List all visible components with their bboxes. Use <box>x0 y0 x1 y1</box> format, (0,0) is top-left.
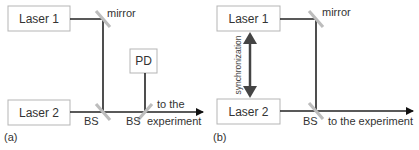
synchronization-arrow <box>243 32 257 98</box>
bs1-label-a: BS <box>84 115 99 127</box>
laser1-label-b: Laser 1 <box>228 12 268 26</box>
mirror-label-b: mirror <box>322 6 351 18</box>
bs2-label-a: BS <box>126 115 141 127</box>
output-label-line1-a: to the <box>157 98 185 110</box>
panel-b: Laser 1 Laser 2 synchronization mirror B… <box>213 6 413 143</box>
panel-b-label: (b) <box>213 131 226 143</box>
laser2-label-a: Laser 2 <box>19 106 59 120</box>
bs-label-b: BS <box>303 115 318 127</box>
panel-a-label: (a) <box>4 131 17 143</box>
photodiode-label: PD <box>135 54 152 68</box>
laser1-label-a: Laser 1 <box>19 12 59 26</box>
laser-setup-diagram: Laser 1 Laser 2 PD mirror BS BS to the e… <box>0 0 419 150</box>
synchronization-label: synchronization <box>233 35 243 94</box>
output-label-line2-a: experiment <box>147 115 201 127</box>
panel-a: Laser 1 Laser 2 PD mirror BS BS to the e… <box>4 6 203 143</box>
mirror-label-a: mirror <box>107 7 136 19</box>
output-label-b: to the experiment <box>328 115 413 127</box>
laser2-label-b: Laser 2 <box>228 105 268 119</box>
